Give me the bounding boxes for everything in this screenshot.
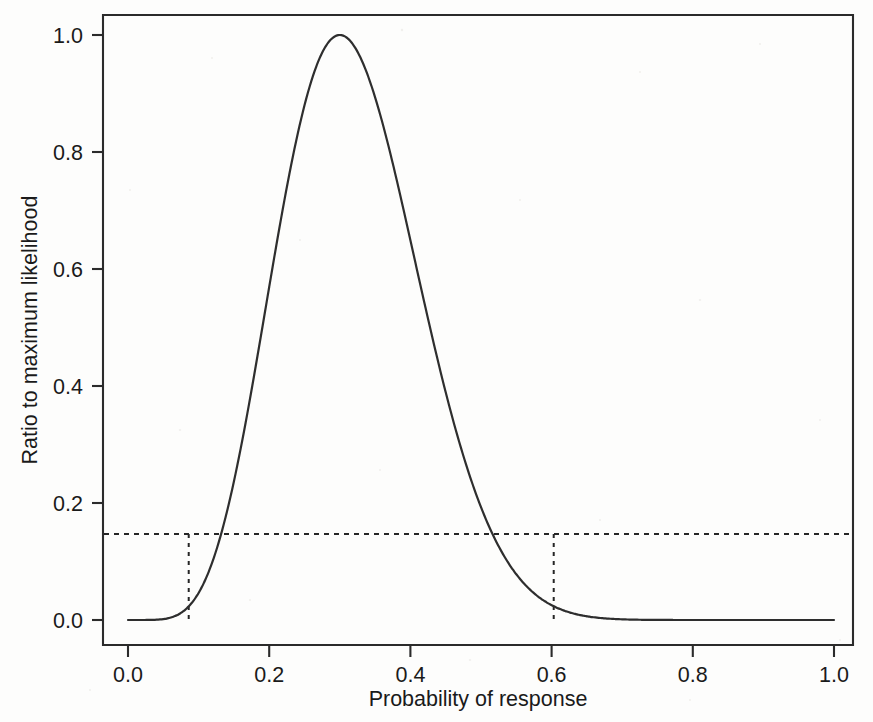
paper-texture xyxy=(59,29,841,701)
y-axis-ticks xyxy=(92,35,103,620)
x-axis-title: Probability of response xyxy=(369,687,588,711)
x-tick-label-0.0: 0.0 xyxy=(113,663,143,687)
likelihood-curve xyxy=(128,35,834,620)
chart-canvas: 0.00.20.40.60.81.0 0.00.20.40.60.81.0 Pr… xyxy=(0,0,873,722)
x-tick-label-0.8: 0.8 xyxy=(678,663,708,687)
y-tick-label-1.0: 1.0 xyxy=(53,24,83,48)
y-tick-label-0.2: 0.2 xyxy=(53,492,83,516)
y-tick-label-0.4: 0.4 xyxy=(53,375,83,399)
x-tick-label-1.0: 1.0 xyxy=(819,663,849,687)
y-tick-label-0.8: 0.8 xyxy=(53,141,83,165)
y-tick-label-0.6: 0.6 xyxy=(53,258,83,282)
x-tick-label-0.4: 0.4 xyxy=(395,663,425,687)
y-axis-tick-labels: 0.00.20.40.60.81.0 xyxy=(53,24,83,633)
likelihood-ratio-figure: 0.00.20.40.60.81.0 0.00.20.40.60.81.0 Pr… xyxy=(0,0,873,722)
x-axis-ticks xyxy=(128,645,834,657)
x-axis-tick-labels: 0.00.20.40.60.81.0 xyxy=(113,663,849,687)
x-tick-label-0.2: 0.2 xyxy=(254,663,284,687)
y-axis-title: Ratio to maximum likelihood xyxy=(18,196,42,465)
y-tick-label-0.0: 0.0 xyxy=(53,609,83,633)
x-tick-label-0.6: 0.6 xyxy=(537,663,567,687)
